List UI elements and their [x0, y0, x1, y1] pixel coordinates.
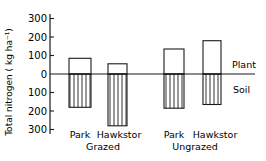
nitrogen-chart: Total nitrogen ( kg ha⁻¹) 300 200 100 0 … [0, 0, 266, 161]
cat-label-grazed-park: Park [70, 129, 91, 140]
cat-label-ungrazed-park: Park [164, 129, 185, 140]
soil-bar [164, 74, 184, 108]
plant-label: Plant [232, 59, 256, 70]
soil-label: Soil [233, 84, 250, 95]
cat-label-ungrazed-hawkstor: Hawkstor [193, 129, 238, 140]
bar-ungrazed-hawkstor [203, 41, 221, 105]
tick-300-down: 300 [28, 124, 47, 135]
plant-bar [108, 64, 127, 74]
group-label-ungrazed: Ungrazed [172, 141, 218, 152]
soil-bar [203, 74, 221, 105]
tick-300-up: 300 [28, 13, 47, 24]
tick-200-up: 200 [28, 32, 47, 43]
tick-100-down: 100 [28, 87, 47, 98]
tick-100-up: 100 [28, 50, 47, 61]
tick-200-down: 200 [28, 106, 47, 117]
soil-bar [69, 74, 91, 107]
bar-grazed-park [69, 58, 91, 107]
plant-bar [164, 49, 184, 74]
plant-bar [203, 41, 221, 74]
soil-bar [108, 74, 127, 126]
cat-label-grazed-hawkstor: Hawkstor [97, 129, 142, 140]
group-label-grazed: Grazed [86, 141, 120, 152]
y-tick-labels: 300 200 100 0 100 200 300 [28, 13, 47, 135]
plant-bar [69, 58, 91, 74]
tick-0: 0 [41, 69, 47, 80]
bar-ungrazed-park [164, 49, 184, 108]
bar-grazed-hawkstor [108, 64, 127, 126]
y-axis-label: Total nitrogen ( kg ha⁻¹) [4, 28, 14, 137]
